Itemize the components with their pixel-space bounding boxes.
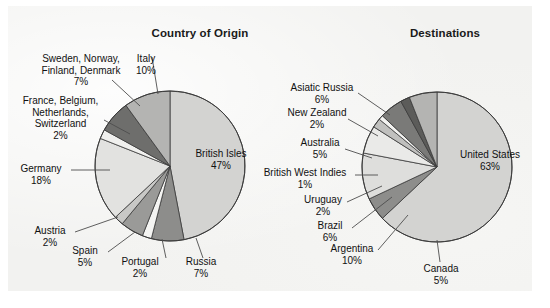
label-australia: Australia 5% [292, 137, 348, 160]
label-argentina: Argentina 10% [322, 243, 382, 266]
label-british-west-indies: British West Indies 1% [256, 167, 354, 190]
label-brazil: Brazil 6% [308, 220, 352, 243]
figure-canvas: Country of Origin Destinations Sweden, N… [0, 0, 550, 308]
label-new-zealand: New Zealand 2% [282, 107, 352, 130]
label-uruguay: Uruguay 2% [297, 194, 349, 217]
label-asiatic-russia: Asiatic Russia 6% [284, 82, 360, 105]
label-united-states: United States 63% [450, 149, 530, 172]
label-canada: Canada 5% [414, 263, 468, 286]
